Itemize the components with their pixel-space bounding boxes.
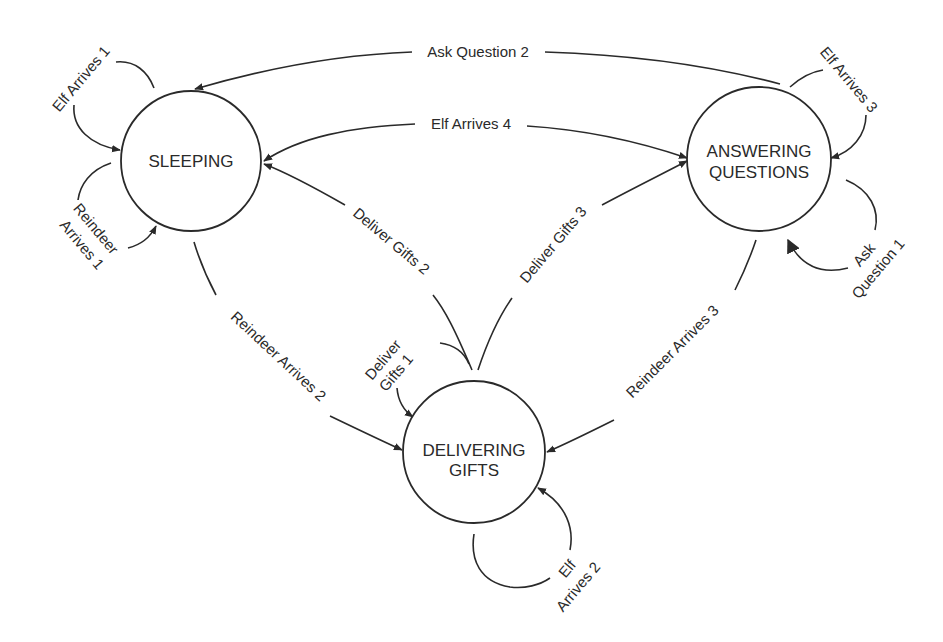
edge-line (116, 62, 154, 88)
state-delivering-gifts: DELIVERING GIFTS (403, 381, 545, 523)
edge-line (478, 298, 512, 370)
transition-deliver-gifts-3: Deliver Gifts 3 (478, 161, 687, 370)
transition-label: Deliver Gifts 3 (516, 203, 590, 286)
edge-line (602, 161, 687, 205)
state-label: SLEEPING (148, 152, 233, 171)
edge-line (397, 388, 413, 417)
edge-line (790, 70, 823, 87)
edge-line (194, 242, 216, 295)
state-sleeping: SLEEPING (121, 91, 261, 231)
state-answering-questions: ANSWERING QUESTIONS (687, 87, 831, 231)
transition-elf-arrives-4: Elf Arrives 4 (264, 115, 687, 161)
transition-label: Reindeer Arrives 2 (228, 308, 330, 405)
edge-line (264, 164, 345, 205)
edge-line (547, 420, 614, 452)
state-label: ANSWERING (707, 142, 812, 161)
edge-line (128, 226, 156, 248)
edge-line (195, 52, 412, 89)
edge-line (846, 180, 876, 230)
edge-line (74, 105, 120, 150)
state-label: DELIVERING (423, 441, 526, 460)
edge-line (330, 416, 402, 450)
transition-label: Elf Arrives 1 (49, 42, 113, 114)
transition-label: Elf Arrives 3 (817, 43, 881, 115)
state-label: QUESTIONS (709, 163, 809, 182)
edge-line (538, 488, 571, 550)
edge-line (264, 124, 415, 161)
state-label: GIFTS (449, 461, 499, 480)
edge-line (545, 52, 780, 84)
edge-line (831, 115, 866, 158)
transition-reindeer-arrives-2: Reindeer Arrives 2 (194, 242, 402, 450)
transition-label: Elf Arrives 4 (431, 115, 511, 132)
edge-line (473, 534, 550, 588)
transition-label: Ask Question 2 (427, 43, 529, 60)
edge-line (788, 240, 848, 270)
transition-label: Deliver Gifts 2 (350, 204, 433, 278)
state-diagram: Ask Question 2 Elf Arrives 4 Deliver Gif… (0, 0, 943, 642)
transition-label: Reindeer Arrives 3 (622, 301, 721, 400)
edge-line (78, 163, 111, 200)
edge-line (527, 126, 687, 158)
transition-reindeer-arrives-3: Reindeer Arrives 3 (547, 240, 756, 452)
edge-line (735, 240, 756, 290)
transition-deliver-gifts-2: Deliver Gifts 2 (264, 164, 472, 370)
transition-ask-question-2: Ask Question 2 (195, 43, 780, 89)
transition-label: Question 1 (848, 235, 908, 302)
